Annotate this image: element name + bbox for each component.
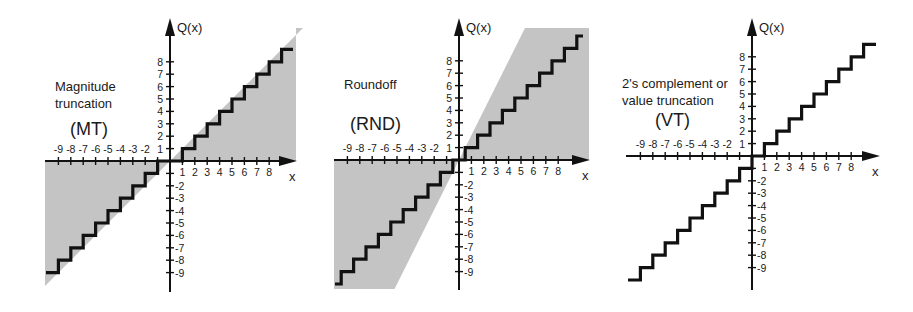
y-tick-label: 3: [157, 118, 163, 130]
y-tick-label: 8: [446, 55, 452, 67]
y-tick-label: -4: [464, 204, 473, 216]
x-tick-label: -2: [723, 138, 732, 150]
x-tick-label: -5: [392, 142, 401, 154]
y-tick-label: -9: [464, 266, 473, 278]
y-axis-arrow-icon: [165, 18, 175, 36]
chart-title-line: 2's complement or: [622, 76, 728, 91]
x-tick-label: -6: [673, 138, 682, 150]
y-axis-label: Q(x): [466, 20, 491, 35]
y-tick-label: 7: [446, 67, 452, 79]
x-tick-label: 1: [179, 166, 185, 178]
y-tick-label: -9: [175, 267, 184, 279]
y-tick-label: -7: [175, 242, 184, 254]
x-tick-label: -6: [91, 143, 100, 155]
y-tick-label: 3: [446, 117, 452, 129]
chart-title-line: Roundoff: [344, 77, 397, 92]
y-tick-label: 1: [739, 138, 745, 150]
x-tick-label: -3: [417, 142, 426, 154]
x-tick-label: -5: [685, 138, 694, 150]
x-tick-label: -7: [661, 138, 670, 150]
x-tick-label: -2: [141, 143, 150, 155]
y-tick-label: -6: [757, 224, 766, 236]
x-tick-label: 8: [848, 161, 854, 173]
y-tick-label: 4: [157, 105, 163, 117]
x-tick-label: -2: [430, 142, 439, 154]
y-tick-label: -8: [757, 249, 766, 261]
y-tick-label: 7: [739, 63, 745, 75]
y-tick-label: -8: [464, 253, 473, 265]
chart-title-line: value truncation: [622, 93, 714, 108]
x-tick-label: -8: [648, 138, 657, 150]
y-tick-label: 7: [157, 68, 163, 80]
x-tick-label: 4: [799, 161, 805, 173]
x-tick-label: 3: [493, 165, 499, 177]
y-tick-label: -7: [757, 237, 766, 249]
y-axis-arrow-icon: [747, 18, 757, 36]
y-tick-label: -9: [757, 262, 766, 274]
y-tick-label: 6: [739, 76, 745, 88]
x-tick-label: 2: [774, 161, 780, 173]
x-tick-label: 3: [786, 161, 792, 173]
x-tick-label: -4: [116, 143, 125, 155]
y-tick-label: -6: [175, 229, 184, 241]
x-tick-label: 4: [506, 165, 512, 177]
x-tick-label: 7: [543, 165, 549, 177]
x-tick-label: 7: [836, 161, 842, 173]
x-tick-label: -7: [79, 143, 88, 155]
x-tick-label: -3: [128, 143, 137, 155]
chart-magnitude-truncation: -9-8-7-6-5-4-3-21234567812345678-2-3-4-5…: [45, 18, 303, 292]
x-tick-label: 1: [761, 161, 767, 173]
y-tick-label: 5: [157, 93, 163, 105]
y-tick-label: -5: [757, 212, 766, 224]
x-tick-label: 6: [823, 161, 829, 173]
x-tick-label: -6: [380, 142, 389, 154]
y-tick-label: 8: [739, 51, 745, 63]
y-tick-label: 4: [446, 104, 452, 116]
x-tick-label: 2: [481, 165, 487, 177]
x-tick-label: 6: [530, 165, 536, 177]
x-tick-label: -8: [355, 142, 364, 154]
x-tick-label: -9: [54, 143, 63, 155]
x-tick-label: 7: [254, 166, 260, 178]
chart-abbreviation: (MT): [70, 119, 108, 139]
x-tick-label: -3: [710, 138, 719, 150]
x-tick-label: 1: [468, 165, 474, 177]
y-tick-label: -5: [464, 216, 473, 228]
chart-value-truncation: -9-8-7-6-5-4-3-21234567812345678-2-3-4-5…: [622, 18, 880, 290]
x-tick-label: -4: [698, 138, 707, 150]
y-tick-label: 5: [446, 92, 452, 104]
y-tick-label: -2: [757, 175, 766, 187]
y-axis-label: Q(x): [177, 20, 202, 35]
y-tick-label: 1: [446, 142, 452, 154]
y-tick-label: 1: [157, 143, 163, 155]
y-tick-label: -2: [464, 179, 473, 191]
y-tick-label: -5: [175, 217, 184, 229]
x-tick-label: -7: [368, 142, 377, 154]
x-tick-label: 3: [204, 166, 210, 178]
x-tick-label: -8: [66, 143, 75, 155]
x-tick-label: 5: [229, 166, 235, 178]
y-tick-label: 2: [157, 130, 163, 142]
y-tick-label: 2: [739, 125, 745, 137]
x-tick-label: -5: [103, 143, 112, 155]
chart-title-line: Magnitude: [55, 79, 116, 94]
y-tick-label: 5: [739, 88, 745, 100]
chart-roundoff: -9-8-7-6-5-4-3-21234567812345678-2-3-4-5…: [334, 18, 590, 290]
x-tick-label: 6: [241, 166, 247, 178]
y-axis-arrow-icon: [454, 18, 464, 36]
chart-abbreviation: (VT): [655, 110, 690, 130]
y-tick-label: -7: [464, 241, 473, 253]
y-tick-label: 4: [739, 100, 745, 112]
x-tick-label: 8: [266, 166, 272, 178]
x-axis-label: x: [872, 164, 879, 179]
y-tick-label: 3: [739, 113, 745, 125]
y-tick-label: 6: [157, 81, 163, 93]
x-tick-label: 5: [811, 161, 817, 173]
quantization-figure: -9-8-7-6-5-4-3-21234567812345678-2-3-4-5…: [0, 0, 913, 312]
y-tick-label: 2: [446, 129, 452, 141]
y-tick-label: -8: [175, 254, 184, 266]
y-tick-label: -6: [464, 228, 473, 240]
x-axis-label: x: [582, 168, 589, 183]
y-tick-label: -4: [757, 200, 766, 212]
y-tick-label: -2: [175, 180, 184, 192]
